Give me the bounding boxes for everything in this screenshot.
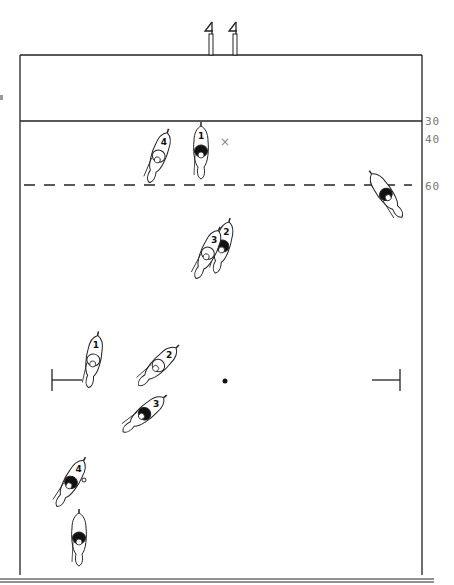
- player-dark-unnumbered: [72, 509, 87, 566]
- ball: [223, 379, 228, 384]
- ball-outline: [82, 478, 86, 482]
- x-mark: ×: [220, 135, 230, 149]
- svg-text:3: 3: [211, 235, 217, 245]
- penalty-mark-left: [52, 369, 82, 391]
- svg-text:1: 1: [93, 340, 99, 350]
- svg-text:4: 4: [75, 464, 81, 474]
- goal-post-2: [229, 22, 237, 55]
- player-dark-3: 3: [118, 389, 171, 437]
- yard-label-40: 40: [425, 133, 440, 146]
- polo-field-diagram: × 41231234 304060: [0, 0, 454, 585]
- field-svg: × 41231234: [0, 0, 454, 585]
- goal-post-1: [205, 22, 213, 55]
- player-light-1: 1: [81, 330, 105, 389]
- svg-text:3: 3: [153, 399, 159, 409]
- penalty-mark-right: [372, 369, 400, 391]
- field-lines: [0, 55, 434, 582]
- yard-label-60: 60: [425, 180, 440, 193]
- goal-posts: [205, 22, 237, 55]
- player-dark-unnumbered: [363, 166, 408, 221]
- player-light-2: 2: [133, 340, 184, 391]
- players: 41231234: [51, 122, 408, 566]
- stray-mark: [0, 95, 3, 100]
- svg-text:1: 1: [198, 131, 204, 141]
- player-light-4: 4: [142, 126, 175, 185]
- svg-text:4: 4: [161, 137, 167, 147]
- svg-text:2: 2: [166, 350, 172, 360]
- yard-label-30: 30: [425, 115, 440, 128]
- player-dark-1: 1: [194, 122, 209, 179]
- svg-text:2: 2: [223, 227, 229, 237]
